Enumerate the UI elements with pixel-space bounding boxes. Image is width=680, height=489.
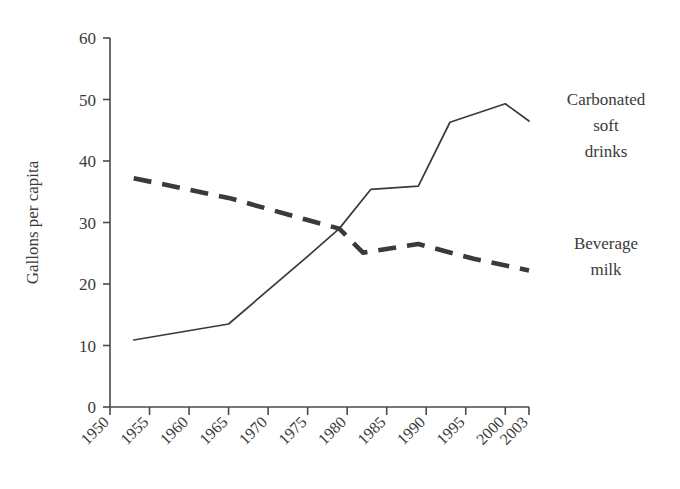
series-annotations: CarbonatedsoftdrinksBeveragemilk (567, 90, 646, 279)
line-chart: 0102030405060 19501955196019651970197519… (0, 0, 680, 489)
x-tick-label: 1965 (196, 413, 231, 448)
annotation-carbonated-soft-drinks: Carbonated (567, 90, 646, 109)
x-tick-label: 1960 (157, 413, 192, 448)
y-tick-label: 30 (79, 214, 96, 233)
y-tick-label: 20 (79, 275, 96, 294)
data-series (134, 104, 529, 340)
x-tick-label: 2003 (496, 413, 531, 448)
chart-container: 0102030405060 19501955196019651970197519… (0, 0, 680, 489)
y-tick-label: 60 (79, 29, 96, 48)
x-tick-label: 1950 (77, 413, 112, 448)
x-tick-label: 1990 (394, 413, 429, 448)
series-line-beverage-milk (134, 178, 529, 270)
x-tick-label: 1985 (354, 413, 389, 448)
annotation-beverage-milk: milk (590, 260, 622, 279)
y-tick-label: 0 (88, 398, 97, 417)
y-axis-title-text: Gallons per capita (23, 160, 42, 284)
y-tick-label: 40 (79, 152, 96, 171)
series-line-carbonated-soft-drinks (134, 104, 529, 340)
y-tick-label: 50 (79, 91, 96, 110)
x-tick-label: 1980 (315, 413, 350, 448)
y-axis-tick-labels: 0102030405060 (79, 29, 96, 417)
annotation-carbonated-soft-drinks: drinks (585, 142, 628, 161)
x-tick-label: 1955 (117, 413, 152, 448)
y-axis-title: Gallons per capita (23, 160, 42, 284)
y-tick-label: 10 (79, 337, 96, 356)
x-axis-tick-labels: 1950195519601965197019751980198519901995… (77, 413, 531, 448)
tick-marks (103, 38, 529, 415)
annotation-carbonated-soft-drinks: soft (593, 116, 619, 135)
x-tick-label: 1970 (236, 413, 271, 448)
annotation-beverage-milk: Beverage (574, 234, 638, 253)
x-tick-label: 1975 (275, 413, 310, 448)
x-tick-label: 1995 (433, 413, 468, 448)
